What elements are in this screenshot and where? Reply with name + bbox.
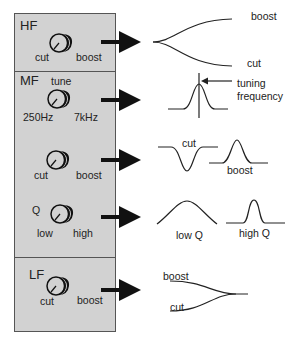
mf-tune-arrow-icon	[101, 89, 141, 111]
hf-boost-curve	[153, 19, 232, 42]
mf-gain-knob-icon[interactable]	[47, 151, 69, 169]
mf-q-knob-icon[interactable]	[51, 205, 73, 223]
lf-cut-curve	[170, 294, 236, 311]
high-q-curve	[226, 200, 285, 223]
lf-boost-curve	[170, 281, 248, 294]
low-q-curve	[157, 201, 217, 224]
tuning-pointer-arrow-icon	[201, 78, 232, 85]
mf-gain-arrow-icon	[101, 149, 141, 171]
lf-gain-knob-icon[interactable]	[47, 277, 69, 295]
hf-arrow-icon	[101, 31, 141, 53]
diagram-graphics	[0, 0, 295, 342]
hf-gain-knob-icon[interactable]	[50, 34, 72, 52]
mf-q-arrow-icon	[101, 206, 141, 228]
mf-tune-knob-icon[interactable]	[48, 90, 70, 108]
mf-boost-curve	[209, 140, 268, 163]
mf-tune-curve	[168, 84, 228, 109]
hf-cut-curve	[153, 42, 232, 66]
lf-arrow-icon	[101, 279, 141, 301]
mf-cut-curve	[158, 147, 218, 171]
